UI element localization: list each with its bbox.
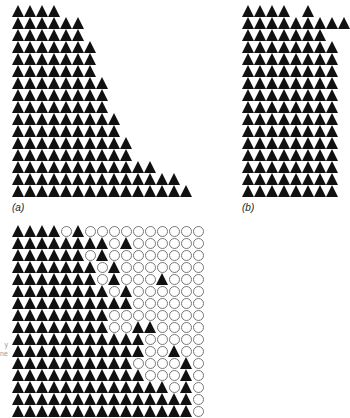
black-triangle-icon <box>36 41 48 53</box>
triangle-cell <box>326 89 338 101</box>
triangle-cell <box>108 149 120 161</box>
black-triangle-icon <box>24 321 36 333</box>
triangle-cell <box>314 53 326 65</box>
black-triangle-icon <box>266 125 278 137</box>
black-triangle-icon <box>12 41 24 53</box>
black-triangle-icon <box>60 173 72 185</box>
black-triangle-icon <box>12 261 24 273</box>
black-triangle-icon <box>108 297 120 309</box>
triangle-cell <box>60 65 72 77</box>
open-circle-icon <box>145 286 156 297</box>
black-triangle-icon <box>12 309 24 321</box>
open-circle-icon <box>193 298 204 309</box>
circle-cell <box>180 225 192 237</box>
black-triangle-icon <box>96 345 108 357</box>
triangle-cell <box>48 393 60 405</box>
triangle-cell <box>60 89 72 101</box>
black-triangle-icon <box>60 101 72 113</box>
black-triangle-icon <box>326 113 338 125</box>
panel-b-label: (b) <box>242 202 254 213</box>
circle-cell <box>156 321 168 333</box>
triangle-cell <box>36 249 48 261</box>
triangle-cell <box>326 53 338 65</box>
black-triangle-icon <box>108 369 120 381</box>
black-triangle-icon <box>84 41 96 53</box>
triangle-cell <box>266 29 278 41</box>
triangle-cell <box>290 53 302 65</box>
black-triangle-icon <box>60 65 72 77</box>
black-triangle-icon <box>302 65 314 77</box>
triangle-cell <box>48 65 60 77</box>
triangle-cell <box>84 65 96 77</box>
black-triangle-icon <box>48 273 60 285</box>
black-triangle-icon <box>60 161 72 173</box>
triangle-cell <box>302 5 314 17</box>
black-triangle-icon <box>314 137 326 149</box>
triangle-cell <box>84 345 96 357</box>
open-circle-icon <box>169 274 180 285</box>
triangle-cell <box>302 149 314 161</box>
open-circle-icon <box>169 262 180 273</box>
triangle-cell <box>96 137 108 149</box>
black-triangle-icon <box>84 77 96 89</box>
triangle-cell <box>278 41 290 53</box>
circle-cell <box>180 321 192 333</box>
black-triangle-icon <box>278 137 290 149</box>
triangle-cell <box>12 393 24 405</box>
circle-cell <box>192 273 204 285</box>
black-triangle-icon <box>96 137 108 149</box>
black-triangle-icon <box>326 41 338 53</box>
triangle-cell <box>108 297 120 309</box>
black-triangle-icon <box>24 53 36 65</box>
triangle-cell <box>36 185 48 197</box>
triangle-cell <box>254 161 266 173</box>
triangle-cell <box>24 125 36 137</box>
black-triangle-icon <box>72 321 84 333</box>
triangle-cell <box>36 53 48 65</box>
black-triangle-icon <box>266 161 278 173</box>
triangle-cell <box>120 173 132 185</box>
open-circle-icon <box>157 322 168 333</box>
black-triangle-icon <box>290 53 302 65</box>
black-triangle-icon <box>132 321 144 333</box>
open-circle-icon <box>133 262 144 273</box>
circle-cell <box>168 357 180 369</box>
black-triangle-icon <box>108 113 120 125</box>
open-circle-icon <box>169 250 180 261</box>
black-triangle-icon <box>254 185 266 197</box>
black-triangle-icon <box>302 17 314 29</box>
black-triangle-icon <box>254 101 266 113</box>
triangle-cell <box>84 41 96 53</box>
black-triangle-icon <box>168 185 180 197</box>
circle-cell <box>168 261 180 273</box>
black-triangle-icon <box>60 273 72 285</box>
circle-cell <box>132 249 144 261</box>
open-circle-icon <box>157 334 168 345</box>
black-triangle-icon <box>72 381 84 393</box>
black-triangle-icon <box>326 17 338 29</box>
open-circle-icon <box>157 346 168 357</box>
triangle-cell <box>302 89 314 101</box>
circle-cell <box>144 237 156 249</box>
black-triangle-icon <box>72 297 84 309</box>
triangle-cell <box>96 297 108 309</box>
black-triangle-icon <box>48 321 60 333</box>
black-triangle-icon <box>242 137 254 149</box>
black-triangle-icon <box>132 345 144 357</box>
triangle-cell <box>12 285 24 297</box>
black-triangle-icon <box>168 405 180 417</box>
black-triangle-icon <box>254 5 266 17</box>
black-triangle-icon <box>120 161 132 173</box>
black-triangle-icon <box>48 285 60 297</box>
triangle-cell <box>48 405 60 417</box>
triangle-cell <box>60 369 72 381</box>
circle-cell <box>108 309 120 321</box>
triangle-cell <box>144 321 156 333</box>
triangle-cell <box>12 405 24 417</box>
black-triangle-icon <box>12 321 24 333</box>
triangle-cell <box>72 297 84 309</box>
triangle-cell <box>60 333 72 345</box>
triangle-cell <box>242 173 254 185</box>
triangle-cell <box>12 125 24 137</box>
circle-cell <box>180 249 192 261</box>
